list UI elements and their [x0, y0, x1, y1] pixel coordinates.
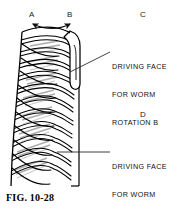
callout-b-line-2: FOR WORM — [112, 90, 167, 99]
callout-a-line-1: DRIVING FACE — [112, 162, 167, 171]
label-a: A — [29, 11, 35, 19]
callout-driving-face-rotation-b: DRIVING FACE FOR WORM ROTATION B — [112, 43, 167, 146]
callout-a-line-2: FOR WORM — [112, 190, 167, 199]
figure-caption: FIG. 10-28 — [6, 192, 54, 203]
callout-b-line-3: ROTATION B — [112, 118, 167, 127]
callout-b-line-1: DRIVING FACE — [112, 62, 167, 71]
worm-body — [11, 27, 80, 186]
callout-driving-face-rotation-a: DRIVING FACE FOR WORM ROTATION A — [112, 143, 167, 214]
label-b: B — [67, 11, 73, 19]
figure-10-28: A B C D DRIVING FACE FOR WORM ROTATION B… — [0, 0, 193, 214]
label-c: C — [140, 11, 146, 19]
